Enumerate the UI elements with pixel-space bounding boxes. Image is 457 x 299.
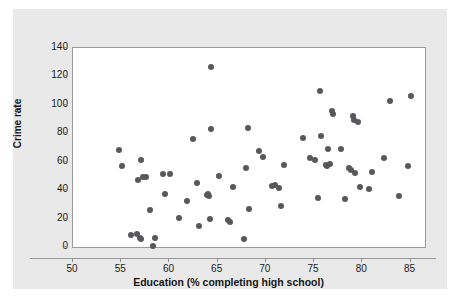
data-point [366,186,372,192]
data-point [160,171,166,177]
x-tick-mark [120,258,121,262]
data-point [176,215,182,221]
y-axis-title: Crime rate [12,74,23,174]
data-point [405,163,411,169]
data-point [246,206,252,212]
data-point [245,125,251,131]
data-point [230,184,236,190]
data-point [241,236,247,242]
data-point [138,236,144,242]
data-point [355,119,361,125]
data-point [147,207,153,213]
data-point [184,198,190,204]
x-tick-label: 50 [52,263,92,274]
data-point [300,135,306,141]
data-point [369,169,375,175]
data-point [327,161,333,167]
data-point [116,147,122,153]
data-points-layer [73,48,425,247]
y-tick-mark [64,47,68,48]
data-point [196,223,202,229]
y-axis-ticks: 020406080100120140 [32,47,68,246]
x-tick-mark [313,258,314,262]
data-point [315,195,321,201]
data-point [138,157,144,163]
x-tick-label: 70 [245,263,285,274]
data-point [206,193,212,199]
data-point [207,216,213,222]
x-tick-label: 55 [100,263,140,274]
x-tick-mark [265,258,266,262]
data-point [260,154,266,160]
data-point [281,162,287,168]
data-point [342,196,348,202]
y-tick-mark [64,161,68,162]
data-point [338,146,344,152]
x-axis-title: Education (% completing high school) [0,276,457,288]
data-point [325,146,331,152]
data-point [387,98,393,104]
data-point [408,93,414,99]
data-point [128,232,134,238]
data-point [317,88,323,94]
data-point [276,185,282,191]
data-point [208,64,214,70]
x-tick-label: 85 [390,263,430,274]
data-point [330,111,336,117]
data-point [396,193,402,199]
plot-area [72,47,426,248]
x-tick-mark [168,258,169,262]
y-tick-mark [64,132,68,133]
data-point [357,184,363,190]
scatterplot-figure: 020406080100120140 Crime rate 5055606570… [0,0,457,299]
data-point [227,219,233,225]
data-point [167,171,173,177]
data-point [208,126,214,132]
data-point [243,165,249,171]
data-point [190,136,196,142]
x-tick-mark [72,258,73,262]
x-tick-mark [410,258,411,262]
data-point [352,170,358,176]
data-point [278,203,284,209]
data-point [312,157,318,163]
x-tick-label: 65 [197,263,237,274]
y-tick-mark [64,75,68,76]
data-point [152,235,158,241]
x-axis-line [30,258,436,259]
data-point [162,191,168,197]
y-tick-mark [64,104,68,105]
data-point [119,163,125,169]
data-point [194,180,200,186]
data-point [216,173,222,179]
x-tick-label: 80 [341,263,381,274]
data-point [143,174,149,180]
x-tick-mark [217,258,218,262]
x-tick-mark [361,258,362,262]
y-tick-mark [64,246,68,247]
data-point [256,148,262,154]
x-tick-label: 75 [293,263,333,274]
x-tick-label: 60 [148,263,188,274]
y-tick-mark [64,218,68,219]
data-point [381,155,387,161]
data-point [318,133,324,139]
y-tick-mark [64,189,68,190]
